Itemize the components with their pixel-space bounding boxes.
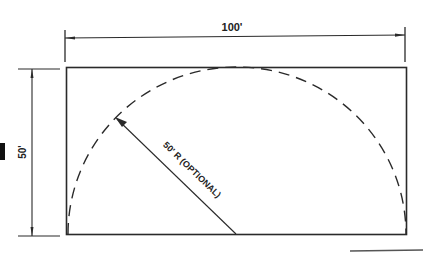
scan-artifact-line — [350, 250, 423, 251]
width-label: 100' — [222, 21, 243, 33]
arrowhead-up-icon — [31, 69, 34, 78]
field-rectangle — [67, 68, 407, 235]
arrowhead-right-icon — [395, 34, 405, 37]
width-dimension: 100' — [65, 21, 405, 62]
arrowhead-down-icon — [31, 227, 34, 236]
optional-semicircle-arc — [68, 67, 406, 234]
arrowhead-left-icon — [65, 37, 75, 40]
scan-artifact-mark — [0, 143, 5, 160]
radius-arrowhead-icon — [115, 117, 127, 127]
field-layout-diagram: 100' 50' 50' R (OPTIONAL) — [0, 0, 423, 253]
height-dimension: 50' — [17, 69, 60, 236]
radius-indicator: 50' R (OPTIONAL) — [115, 117, 236, 234]
height-label: 50' — [17, 145, 28, 159]
